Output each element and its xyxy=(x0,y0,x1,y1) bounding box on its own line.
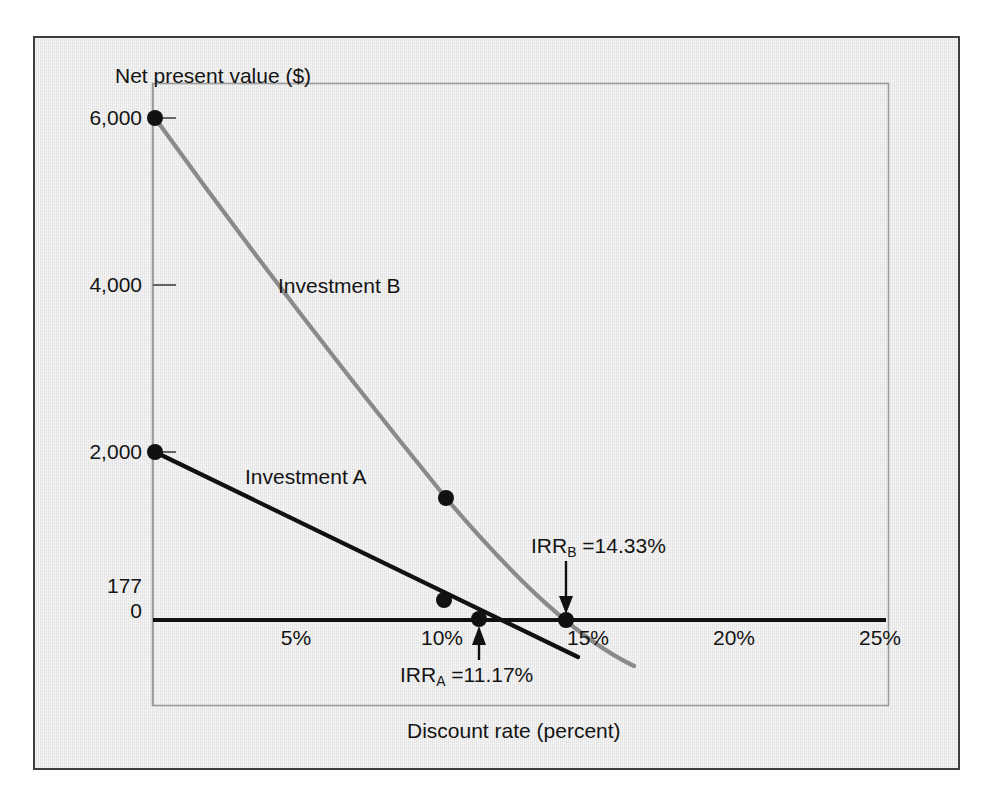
x-tick-label-20pct: 20% xyxy=(694,627,774,648)
y-tick-label-6000: 6,000 xyxy=(58,107,142,128)
x-tick-label-25pct: 25% xyxy=(840,627,920,648)
x-tick-label-15pct: 15% xyxy=(548,627,628,648)
y-tick-label-4000: 4,000 xyxy=(58,274,142,295)
x-axis-title: Discount rate (percent) xyxy=(407,720,621,741)
marker-b-0pct xyxy=(147,110,163,126)
series-line-investment-a xyxy=(155,452,578,657)
marker-a-10pct xyxy=(436,592,452,608)
marker-a-irr xyxy=(471,611,487,627)
marker-b-10pct xyxy=(438,490,454,506)
y-tick-label-2000: 2,000 xyxy=(58,441,142,462)
series-line-investment-b xyxy=(155,118,634,666)
y-tick-label-0: 0 xyxy=(58,600,142,621)
x-tick-label-5pct: 5% xyxy=(256,627,336,648)
series-label-investment-a: Investment A xyxy=(245,466,366,487)
x-tick-label-10pct: 10% xyxy=(402,627,482,648)
y-tick-label-177: 177 xyxy=(58,575,142,596)
irr-b-arrow-head xyxy=(559,596,573,614)
npv-chart: Net present value ($) Discount rate (per… xyxy=(0,0,991,793)
annotation-irr-b: IRRB =14.33% xyxy=(531,535,666,556)
annotation-irr-a-value: =11.17% xyxy=(446,663,534,686)
annotation-irr-a-prefix: IRR xyxy=(400,663,436,686)
annotation-irr-b-subscript: B xyxy=(567,544,576,560)
plot-area-box xyxy=(153,84,889,706)
marker-a-0pct xyxy=(147,444,163,460)
series-label-investment-b: Investment B xyxy=(278,275,401,296)
annotation-irr-a: IRRA =11.17% xyxy=(400,664,533,685)
y-axis-title: Net present value ($) xyxy=(115,65,311,86)
annotation-irr-b-prefix: IRR xyxy=(531,534,567,557)
annotation-irr-a-subscript: A xyxy=(436,673,445,689)
annotation-irr-b-value: =14.33% xyxy=(577,534,666,557)
